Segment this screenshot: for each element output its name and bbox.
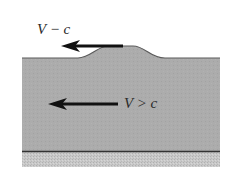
surface-arrow-label: V − c xyxy=(37,22,70,37)
flow-arrow-label: V > c xyxy=(124,96,157,111)
water-layer xyxy=(22,46,220,151)
wave-diagram: V − c V > c xyxy=(0,0,241,176)
channel-bed xyxy=(22,151,220,167)
